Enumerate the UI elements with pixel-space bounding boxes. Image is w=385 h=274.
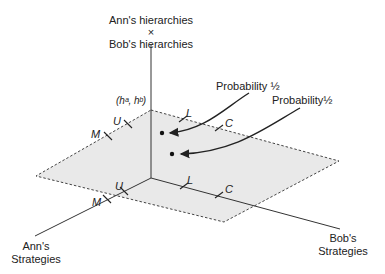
strategy-plane — [36, 110, 339, 222]
probability-label-1: Probability ½ — [216, 80, 280, 92]
label-ann-U: U — [115, 180, 123, 192]
vertical-axis-title-line2: × — [148, 26, 154, 38]
ann-axis-title-line1: Ann's — [22, 240, 50, 252]
label-bob-C: C — [225, 183, 233, 195]
label-upper-U: U — [113, 115, 121, 127]
label-upper-L: L — [186, 107, 192, 119]
vertical-axis-title-line3: Bob's hierarchies — [109, 38, 194, 50]
label-upper-C: C — [225, 117, 233, 129]
probability-point-2 — [170, 152, 174, 156]
label-ann-M: M — [92, 196, 102, 208]
probability-label-2: Probability½ — [272, 94, 333, 106]
probability-point-1 — [160, 131, 164, 135]
diagram: U M L C U M L C (hᵃ, hᵇ) Probability ½ P… — [0, 0, 385, 274]
strategy-hierarchy-diagram: U M L C U M L C (hᵃ, hᵇ) Probability ½ P… — [0, 0, 385, 274]
hierarchy-point-label: (hᵃ, hᵇ) — [116, 95, 146, 106]
bob-axis-title-line1: Bob's — [329, 232, 357, 244]
label-bob-L: L — [187, 174, 193, 186]
bob-axis-title-line2: Strategies — [318, 245, 368, 257]
label-upper-M: M — [91, 128, 101, 140]
ann-axis-title-line2: Strategies — [11, 253, 61, 265]
vertical-axis-title-line1: Ann's hierarchies — [109, 14, 194, 26]
